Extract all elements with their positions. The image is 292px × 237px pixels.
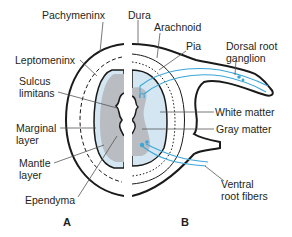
label-ventral-root-fibers-line1: Ventral: [221, 178, 254, 190]
label-white-matter: White matter: [215, 106, 275, 118]
label-arachnoid: Arachnoid: [154, 21, 201, 33]
panel-label-a: A: [63, 216, 71, 228]
label-dorsal-root-ganglion-line1: Dorsal root: [226, 40, 277, 52]
panel-label-b: B: [181, 216, 189, 228]
label-mantle-layer-line1: Mantle: [19, 157, 51, 169]
label-marginal-layer-line2: layer: [16, 134, 39, 146]
label-pachymeninx: Pachymeninx: [42, 9, 105, 21]
label-marginal-layer-line1: Marginal: [16, 122, 56, 134]
label-ependyma: Ependyma: [25, 194, 75, 206]
label-gray-matter: Gray matter: [216, 123, 271, 135]
midline-gap: [124, 38, 132, 204]
label-dorsal-root-ganglion-line2: ganglion: [226, 52, 266, 64]
motor-neuron-2: [145, 140, 149, 144]
label-sulcus-limitans-line2: limitans: [19, 87, 55, 99]
label-pia: Pia: [186, 40, 201, 52]
ganglion-cell-1: [237, 75, 241, 79]
ganglion-cell-2: [242, 79, 245, 82]
label-leptomeninx: Leptomeninx: [15, 54, 75, 66]
label-sulcus-limitans-line1: Sulcus: [19, 75, 51, 87]
spinal-cord-diagram: Pachymeninx Leptomeninx Sulcus limitans …: [0, 0, 292, 237]
label-dura: Dura: [128, 9, 151, 21]
motor-neuron-1: [140, 143, 144, 147]
label-mantle-layer-line2: layer: [19, 169, 42, 181]
label-ventral-root-fibers-line2: root fibers: [221, 190, 268, 202]
